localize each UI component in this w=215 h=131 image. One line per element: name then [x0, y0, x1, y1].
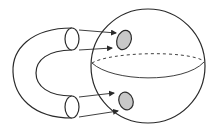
- arrow-bottom-lower: [79, 111, 118, 117]
- tube-end-bottom: [65, 96, 79, 118]
- arrow-top-upper: [79, 30, 116, 33]
- sphere-outline: [91, 9, 205, 123]
- tube-inner-edge: [36, 50, 72, 96]
- arrow-top-lower: [79, 48, 112, 50]
- removed-disk-top: [114, 28, 134, 52]
- equator-front: [92, 62, 204, 78]
- tube-end-top: [65, 28, 79, 50]
- arrow-bottom-upper: [79, 93, 114, 97]
- handle-tube: [13, 28, 79, 118]
- removed-disk-bottom: [116, 90, 135, 112]
- equator-back-dashed: [92, 54, 204, 63]
- handle-attachment-diagram: [0, 0, 215, 131]
- sphere: [91, 9, 205, 123]
- tube-outer-edge: [13, 28, 72, 118]
